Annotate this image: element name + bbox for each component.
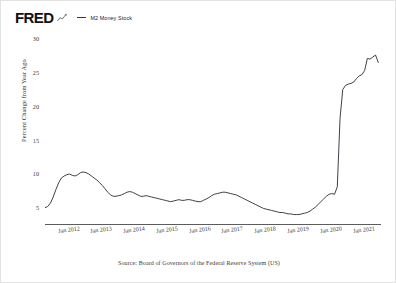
line-swatch-icon	[77, 17, 86, 18]
x-axis-line	[45, 224, 381, 225]
x-tick-label: Jan 2020	[320, 225, 342, 234]
mini-line-chart-icon	[57, 13, 67, 22]
y-axis-ticks: 51015202530	[1, 28, 39, 224]
chart-header: FRED M2 Money Stock	[15, 10, 132, 25]
y-tick-label: 30	[33, 35, 39, 42]
x-axis-ticks: Jan 2012Jan 2013Jan 2014Jan 2015Jan 2016…	[45, 228, 381, 246]
chart-legend: M2 Money Stock	[77, 15, 132, 21]
x-tick-label: Jan 2018	[254, 225, 276, 234]
m2-money-stock-line	[45, 28, 381, 224]
source-note: Source: Board of Governors of the Federa…	[1, 260, 396, 266]
y-tick-label: 5	[36, 204, 39, 211]
x-tick-label: Jan 2017	[221, 225, 243, 234]
x-tick-label: Jan 2016	[189, 225, 211, 234]
x-tick-label: Jan 2015	[156, 225, 178, 234]
fred-chart-card: FRED M2 Money Stock Percent Change from …	[0, 0, 396, 283]
x-tick-label: Jan 2012	[58, 225, 80, 234]
x-tick-label: Jan 2019	[287, 225, 309, 234]
y-tick-label: 15	[33, 136, 39, 143]
legend-item-label: M2 Money Stock	[90, 15, 132, 21]
y-tick-label: 10	[33, 170, 39, 177]
x-tick-label: Jan 2013	[90, 225, 112, 234]
y-tick-label: 25	[33, 68, 39, 75]
y-tick-label: 20	[33, 102, 39, 109]
x-tick-label: Jan 2014	[123, 225, 145, 234]
x-tick-label: Jan 2021	[353, 225, 375, 234]
plot-area	[45, 28, 381, 224]
